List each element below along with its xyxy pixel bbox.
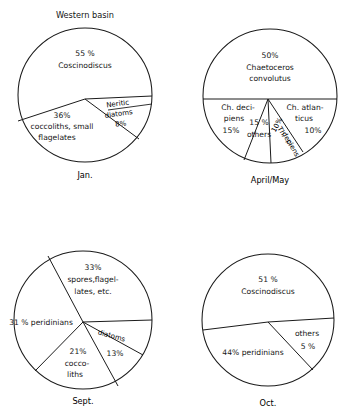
slice-label-april-chdecipiens-line1: Ch. deci- (221, 103, 255, 112)
slice-label-april-chaetoceros-pct: 50% (262, 51, 279, 60)
slice-label-oct-others-pct: 5 % (301, 342, 315, 351)
pie-disc-oct (202, 254, 334, 386)
slice-label-april-others-pct: 15 % (249, 118, 268, 127)
slice-label-april-chatlanticus-pct: 10% (305, 126, 322, 135)
slice-label-sept-spores-line1: spores,flagel- (67, 275, 118, 284)
slice-label-oct-peridinians: 44% peridinians (222, 348, 283, 357)
slice-label-sept-peridinians: 31 % peridinians (9, 318, 73, 327)
slice-label-sept-coccoliths-pct: 21% (70, 347, 87, 356)
slice-label-sept-diatoms-pct: 13% (107, 349, 124, 358)
slice-label-april-chatlanticus-line2: ticus (295, 114, 313, 123)
slice-label-april-chaetoceros-line2: convolutus (249, 74, 290, 83)
pie-chart-jan: Western basin 55 % Coscinodiscus Neritic… (18, 10, 152, 180)
chart-caption-april-may: April/May (251, 175, 290, 185)
chart-caption-sept: Sept. (72, 396, 93, 406)
slice-label-oct-coscinodiscus-name: Coscinodiscus (241, 287, 295, 296)
slice-label-oct-others-name: others (295, 329, 319, 338)
slice-label-april-chaetoceros-line1: Chaetoceros (246, 63, 294, 72)
chart-caption-oct: Oct. (260, 398, 277, 408)
slice-label-april-chatlanticus-line1: Ch. atlan- (287, 103, 324, 112)
slice-label-jan-coccoliths-line1: coccoliths, small (31, 122, 94, 131)
chart-title-western-basin: Western basin (56, 10, 114, 20)
slice-label-jan-neritic-pct: 8% (115, 119, 127, 129)
pie-chart-figure: Western basin 55 % Coscinodiscus Neritic… (0, 0, 356, 416)
slice-label-oct-coscinodiscus-pct: 51 % (258, 275, 277, 284)
slice-label-sept-coccoliths-line2: liths (67, 370, 83, 379)
chart-caption-jan: Jan. (76, 170, 92, 180)
slice-label-jan-coscinodiscus-name: Coscinodiscus (58, 61, 112, 70)
slice-label-sept-coccoliths-line1: cocco- (65, 359, 90, 368)
slice-label-april-chdecipiens-line2: piens (224, 114, 244, 123)
slice-label-sept-spores-pct: 33% (85, 263, 102, 272)
slice-label-jan-coccoliths-line2: flagelates (38, 133, 75, 142)
charts-svg: Western basin 55 % Coscinodiscus Neritic… (0, 0, 356, 416)
slice-label-april-chdecipiens-pct: 15% (223, 126, 240, 135)
slice-label-jan-coscinodiscus-pct: 55 % (75, 49, 94, 58)
pie-chart-april-may: 50% Chaetoceros convolutus Ch. deci- pie… (203, 29, 337, 185)
slice-label-sept-spores-line2: lates, etc. (74, 287, 111, 296)
pie-chart-sept: 33% spores,flagel- lates, etc. 31 % peri… (9, 251, 152, 406)
slice-label-april-others-name: others (247, 130, 271, 139)
pie-chart-oct: 51 % Coscinodiscus others 5 % 44% peridi… (202, 254, 334, 408)
slice-label-jan-coccoliths-pct: 36% (54, 111, 71, 120)
